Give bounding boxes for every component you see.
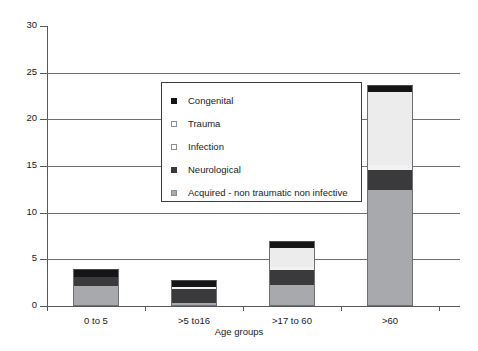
bar-gt60[interactable]: [367, 85, 413, 306]
legend-swatch-infection-icon: [171, 144, 177, 150]
y-tick-label-30: 30: [26, 19, 37, 30]
segment-infection: [367, 165, 413, 170]
chart-container: Percentage 30 25 20 15 10 5 0: [0, 0, 478, 351]
y-tick-label-10: 10: [26, 206, 37, 217]
x-tick-0: [47, 306, 48, 311]
x-label-gt60: >60: [341, 315, 439, 326]
y-tick-label-20: 20: [26, 112, 37, 123]
bar-gt17-to-60[interactable]: [269, 241, 315, 306]
segment-neurological: [73, 277, 119, 286]
segment-trauma: [367, 92, 413, 165]
y-tick-30: 30: [40, 26, 47, 27]
x-tick-3: [341, 306, 342, 311]
segment-infection: [171, 287, 217, 289]
segment-neurological: [269, 270, 315, 285]
y-tick-label-0: 0: [32, 299, 37, 310]
segment-neurological: [367, 170, 413, 191]
y-tick-20: 20: [40, 119, 47, 120]
segment-acquired: [367, 190, 413, 306]
y-tick-15: 15: [40, 166, 47, 167]
segment-congenital: [171, 280, 217, 287]
gridline-25: [47, 73, 460, 74]
legend-swatch-acquired-icon: [171, 190, 177, 196]
y-tick-0: 0: [40, 306, 47, 307]
legend-swatch-congenital-icon: [171, 98, 177, 104]
legend-item-neurological: Neurological: [171, 164, 241, 176]
segment-neurological: [171, 289, 217, 303]
legend-label-trauma: Trauma: [188, 119, 220, 129]
legend: Congenital Trauma Infection Neurological…: [161, 82, 362, 202]
segment-congenital: [73, 269, 119, 277]
x-label-gt17-to-60: >17 to 60: [243, 315, 341, 326]
segment-acquired: [73, 286, 119, 306]
legend-item-infection: Infection: [171, 141, 224, 153]
x-axis-title: Age groups: [0, 326, 478, 337]
bar-gt5-to-16[interactable]: [171, 280, 217, 306]
y-tick-label-5: 5: [32, 252, 37, 263]
legend-item-acquired: Acquired - non traumatic non infective: [171, 187, 347, 199]
segment-congenital: [367, 85, 413, 93]
legend-item-congenital: Congenital: [171, 95, 233, 107]
bar-0-to-5[interactable]: [73, 269, 119, 306]
x-tick-4: [439, 306, 440, 311]
y-tick-10: 10: [40, 213, 47, 214]
legend-swatch-neurological-icon: [171, 167, 177, 173]
legend-item-trauma: Trauma: [171, 118, 220, 130]
legend-label-congenital: Congenital: [188, 96, 233, 106]
legend-label-acquired: Acquired - non traumatic non infective: [188, 188, 347, 198]
legend-swatch-trauma-icon: [171, 121, 177, 127]
y-tick-label-15: 15: [26, 159, 37, 170]
y-tick-label-25: 25: [26, 66, 37, 77]
x-label-gt5-to-16: >5 to16: [145, 315, 243, 326]
x-tick-1: [145, 306, 146, 311]
x-tick-2: [243, 306, 244, 311]
segment-congenital: [269, 241, 315, 248]
y-tick-25: 25: [40, 73, 47, 74]
legend-label-infection: Infection: [188, 142, 224, 152]
y-tick-5: 5: [40, 259, 47, 260]
segment-acquired: [269, 285, 315, 307]
segment-infection: [269, 267, 315, 269]
segment-trauma: [269, 248, 315, 268]
segment-acquired: [171, 303, 217, 306]
legend-label-neurological: Neurological: [188, 165, 241, 175]
x-label-0-to-5: 0 to 5: [47, 315, 145, 326]
x-axis-line: [47, 306, 460, 307]
